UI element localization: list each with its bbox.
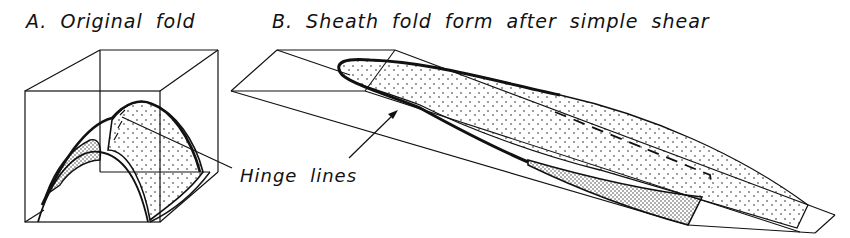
fold-diagram <box>0 0 850 238</box>
hinge-arrow-b <box>349 110 398 158</box>
panel-a-fold-surface <box>38 102 210 222</box>
